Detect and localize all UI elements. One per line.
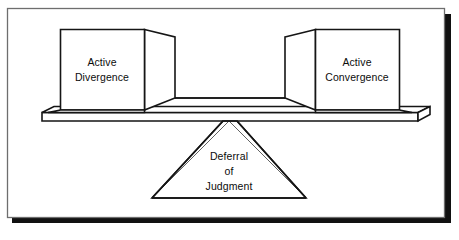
figure-root: Deferral of Judgment balance diagram Act… (0, 0, 459, 240)
left-block-label-line1: Active (87, 56, 116, 68)
balance-diagram-canvas: Deferral of Judgment balance diagram Act… (0, 0, 459, 240)
fulcrum-label-line1: Deferral (210, 150, 248, 162)
right-block-label-line2: Convergence (325, 71, 389, 83)
right-block-label-line1: Active (342, 56, 371, 68)
left-block-active-divergence: Active Divergence (48, 30, 175, 113)
left-block-label-line2: Divergence (75, 71, 129, 83)
fulcrum-label-line3: Judgment (206, 180, 253, 192)
fulcrum-label-line2: of (225, 165, 234, 177)
right-block-active-convergence: Active Convergence (285, 30, 412, 113)
